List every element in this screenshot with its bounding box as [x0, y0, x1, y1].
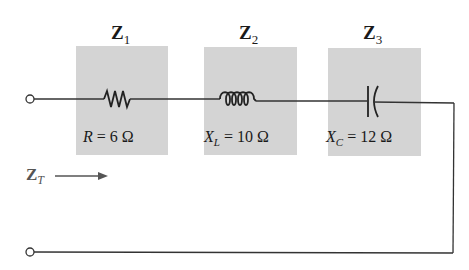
- resistor-icon: [104, 91, 130, 107]
- zt-label: ZT: [26, 165, 44, 188]
- z1-value: R = 6 Ω: [83, 128, 134, 146]
- terminal-top: [26, 95, 34, 103]
- terminal-bottom: [26, 248, 34, 256]
- inductor-icon: [220, 92, 256, 105]
- arrow-head-icon: [98, 172, 108, 180]
- z2-value: XL = 10 Ω: [204, 128, 269, 148]
- z3-value: XC = 12 Ω: [326, 128, 392, 148]
